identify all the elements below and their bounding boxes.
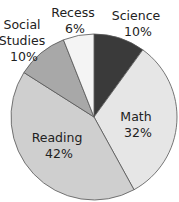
pie-chart: Science 10% Math 32% Reading 42% Social …	[0, 0, 179, 202]
label-math: Math 32%	[120, 109, 155, 140]
label-recess: Recess 6%	[51, 5, 98, 36]
label-science: Science 10%	[112, 8, 164, 39]
